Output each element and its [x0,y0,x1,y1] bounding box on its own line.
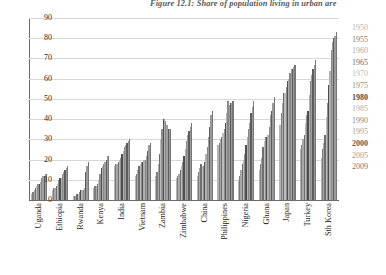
legend-item[interactable]: 1980 [352,92,386,104]
legend-item[interactable]: 1955 [352,34,386,46]
legend-item[interactable]: 2009 [352,161,386,173]
x-tick-label: India [118,203,126,220]
bar [150,143,151,200]
legend-item[interactable]: 1990 [352,115,386,127]
x-tick-label: Turkey [304,203,312,226]
x-label-cell: Ghana [256,201,277,275]
bar-group [277,18,298,200]
bar-group [29,18,50,200]
x-label-cell: Zambia [153,201,174,275]
figure-root: Figure 12.1: Share of population living … [0,0,386,275]
y-tick-label: 90 [28,14,52,22]
bar-group [153,18,174,200]
bar-group [91,18,112,200]
y-tick-label: 40 [28,115,52,123]
legend-item[interactable]: 2005 [352,150,386,162]
x-label-cell: Ethiopia [50,201,71,275]
x-tick-label: Rwanda [77,203,85,230]
x-tick-label: Vietnam [139,203,147,231]
bar-groups [29,18,339,200]
bar [129,139,130,200]
bar [67,166,68,200]
y-tick-label: 20 [28,156,52,164]
figure-title: Figure 12.1: Share of population living … [150,0,386,8]
y-tick-label: 30 [28,135,52,143]
legend: 1950195519601965197019751980198519901995… [352,22,386,173]
x-label-cell: Japan [277,201,298,275]
plot-area [29,18,339,200]
x-label-cell: Sth Korea [318,201,339,275]
bar-group [50,18,71,200]
y-tick-label: 80 [28,34,52,42]
x-label-cell: China [194,201,215,275]
bar [108,156,109,200]
x-tick-label: Ethiopia [56,203,64,231]
bar [88,162,89,200]
x-axis-tick-labels: UgandaEthiopiaRwandaKenyaIndiaVietnamZam… [29,201,339,275]
x-label-cell: Rwanda [70,201,91,275]
bar [191,123,192,200]
x-tick-label: Uganda [35,203,43,228]
legend-item[interactable]: 2000 [352,138,386,150]
bar-group [256,18,277,200]
x-label-cell: Philippines [215,201,236,275]
bar [232,101,233,200]
legend-item[interactable]: 1985 [352,103,386,115]
bar-group [132,18,153,200]
x-tick-label: Philippines [221,203,229,240]
x-label-cell: Kenya [91,201,112,275]
legend-item[interactable]: 1965 [352,57,386,69]
x-tick-label: Nigeria [242,203,250,228]
x-label-cell: Turkey [298,201,319,275]
bar [274,97,275,200]
bar-group [318,18,339,200]
x-label-cell: Zimbabwe [174,201,195,275]
x-tick-label: Japan [283,203,291,222]
x-tick-label: Sth Korea [325,203,333,236]
bar-group [112,18,133,200]
y-tick-label: 10 [28,176,52,184]
bar [294,65,295,200]
x-label-cell: Nigeria [236,201,257,275]
bar-group [194,18,215,200]
legend-item[interactable]: 1950 [352,22,386,34]
bar-group [298,18,319,200]
bar [336,32,337,200]
legend-item[interactable]: 1975 [352,80,386,92]
bar [212,111,213,200]
legend-item[interactable]: 1960 [352,45,386,57]
bar [253,101,254,200]
x-tick-label: China [201,203,209,223]
y-tick-label: 60 [28,75,52,83]
y-tick-label: 50 [28,95,52,103]
bar [315,60,316,200]
x-label-cell: India [112,201,133,275]
x-tick-label: Zambia [159,203,167,228]
legend-item[interactable]: 1970 [352,68,386,80]
x-tick-label: Ghana [263,203,271,224]
y-tick-label: 70 [28,54,52,62]
bar-group [236,18,257,200]
bar-group [174,18,195,200]
bar [170,129,171,200]
bar-group [215,18,236,200]
legend-item[interactable]: 1995 [352,126,386,138]
x-label-cell: Uganda [29,201,50,275]
x-tick-label: Kenya [97,203,105,224]
x-tick-label: Zimbabwe [180,203,188,238]
x-label-cell: Vietnam [132,201,153,275]
bar-group [70,18,91,200]
